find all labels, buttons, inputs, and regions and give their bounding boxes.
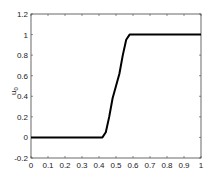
data-line-u0 bbox=[31, 35, 201, 138]
x-tick-label: 0.7 bbox=[144, 161, 156, 170]
x-tick-label: 0.2 bbox=[59, 161, 71, 170]
x-tick-label: 0.4 bbox=[93, 161, 105, 170]
y-tick-label: -0.2 bbox=[14, 154, 28, 163]
x-tick-label: 0 bbox=[29, 161, 34, 170]
x-tick-label: 0.1 bbox=[42, 161, 54, 170]
x-tick-label: 1 bbox=[199, 161, 204, 170]
x-tick-label: 0.3 bbox=[76, 161, 88, 170]
y-tick-label: 0 bbox=[24, 133, 29, 142]
y-tick-label: 0.2 bbox=[17, 113, 29, 122]
x-tick-label: 0.9 bbox=[178, 161, 190, 170]
line-chart: 00.10.20.30.40.50.60.70.80.91-0.200.20.4… bbox=[0, 0, 210, 174]
y-axis-label: u0 bbox=[9, 86, 19, 94]
x-tick-label: 0.5 bbox=[110, 161, 122, 170]
y-tick-label: 1.2 bbox=[17, 10, 29, 19]
x-tick-label: 0.6 bbox=[127, 161, 139, 170]
y-tick-label: 0.6 bbox=[17, 72, 29, 81]
y-tick-label: 0.4 bbox=[17, 92, 29, 101]
x-tick-label: 0.8 bbox=[161, 161, 173, 170]
y-tick-label: 1 bbox=[24, 31, 29, 40]
y-tick-label: 0.8 bbox=[17, 51, 29, 60]
